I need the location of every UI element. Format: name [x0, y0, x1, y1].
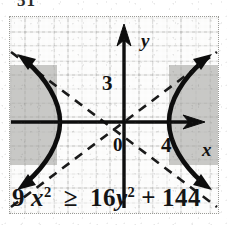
equation-plus: + [141, 184, 156, 211]
hyperbola-inequality-figure: 51 [0, 0, 227, 225]
equation-constant: 144 [162, 184, 201, 211]
problem-number: 51 [17, 0, 36, 11]
equation-exp-x: 2 [44, 184, 52, 200]
equation-var-y: y [116, 184, 128, 211]
equation-coef-x: 9 [12, 184, 25, 211]
equation-relation: ≥ [64, 184, 78, 211]
equation-exp-y: 2 [128, 184, 136, 200]
equation-var-x: x [31, 184, 44, 211]
equation-coef-y: 16 [90, 184, 116, 211]
caption-equation: 9x2≥16y2+144 [12, 184, 201, 212]
